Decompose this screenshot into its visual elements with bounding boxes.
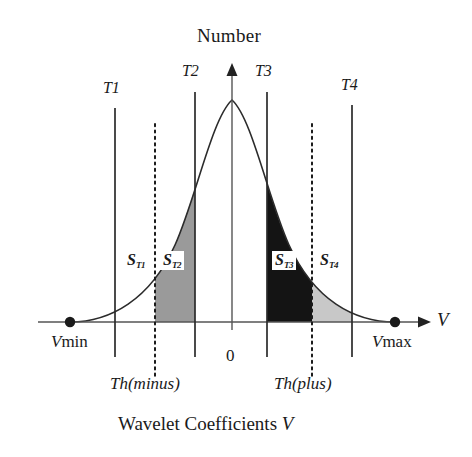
tick-label-t4: T4 [341, 77, 358, 93]
origin-label: 0 [226, 347, 235, 364]
area-subscript-s-t2: T2 [172, 260, 181, 270]
area-symbol-s-t2: S [163, 251, 172, 268]
v-max-suffix: max [382, 332, 411, 351]
area-label-s-t3: ST3 [272, 251, 296, 270]
threshold-plus-label: Th(plus) [274, 375, 332, 392]
area-label-s-t1: ST1 [124, 251, 148, 270]
v-max-point [390, 317, 400, 327]
v-min-label: Vmin [51, 333, 88, 350]
v-min-suffix: min [61, 332, 87, 351]
shaded-regions [115, 80, 352, 322]
region-s-t3 [267, 80, 312, 322]
tick-label-t1: T1 [103, 80, 120, 96]
area-symbol-s-t4: S [320, 251, 329, 268]
threshold-minus-label: Th(minus) [110, 375, 180, 392]
tick-label-t3: T3 [255, 63, 272, 79]
region-s-t4 [312, 80, 352, 322]
figure-caption-text: Wavelet Coefficients [118, 413, 277, 434]
y-axis-arrow-icon [227, 63, 238, 76]
region-s-t2 [155, 80, 195, 322]
area-symbol-s-t3: S [275, 251, 284, 268]
v-min-point [65, 317, 75, 327]
v-max-prefix: V [372, 332, 382, 351]
wavelet-threshold-figure: Number V T1 T2 T3 T4 Vmin Vmax 0 Th(minu… [0, 0, 472, 457]
figure-caption-variable: V [282, 413, 294, 434]
area-subscript-s-t1: T1 [136, 260, 145, 270]
area-symbol-s-t1: S [127, 251, 136, 268]
v-min-prefix: V [51, 332, 61, 351]
figure-caption: Wavelet Coefficients V [118, 414, 293, 433]
y-axis-label: Number [197, 26, 261, 45]
area-label-s-t4: ST4 [317, 251, 341, 270]
x-axis-label: V [437, 310, 449, 329]
v-max-label: Vmax [372, 333, 412, 350]
x-axis-arrow-icon [418, 317, 431, 328]
figure-canvas [0, 0, 472, 457]
area-subscript-s-t4: T4 [329, 260, 338, 270]
tick-label-t2: T2 [182, 63, 199, 79]
area-label-s-t2: ST2 [160, 251, 184, 270]
area-subscript-s-t3: T3 [284, 260, 293, 270]
